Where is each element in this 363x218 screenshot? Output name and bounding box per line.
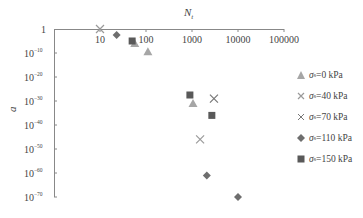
x-tick-label: 1000: [182, 34, 202, 45]
legend-item-110kpa: σs=110 kPa: [296, 127, 352, 148]
legend-item-40kpa: σs=40 kPa: [296, 85, 352, 106]
y-axis-label: a: [6, 106, 18, 112]
legend-item-150kpa: σs=150 kPa: [296, 148, 352, 169]
x-marker-icon: [296, 91, 306, 101]
x-marker-icon: [210, 95, 218, 103]
triangle-marker-icon: [143, 47, 152, 55]
legend-item-0kpa: σs=0 kPa: [296, 64, 352, 85]
x-tick-label: 10000: [226, 34, 251, 45]
y-ticks: 110−1010−2010−3010−4010−5010−6010−70: [24, 24, 57, 203]
diamond-marker-icon: [113, 31, 121, 39]
y-tick-label: 10−60: [24, 167, 43, 179]
y-tick-label: 10−30: [24, 95, 43, 107]
triangle-marker-icon: [296, 70, 306, 80]
x-tick-label: 100: [139, 34, 154, 45]
x-tick-label: 10: [95, 34, 105, 45]
diamond-marker-icon: [203, 171, 211, 179]
y-tick-label: 10−70: [24, 191, 43, 203]
x-tick-label: 100000: [269, 34, 299, 45]
diamond-marker-icon: [296, 133, 306, 143]
axes: [54, 29, 284, 197]
square-marker-icon: [129, 38, 136, 45]
y-tick-label: 10−20: [24, 71, 43, 83]
square-marker-icon: [296, 154, 306, 164]
square-marker-icon: [208, 112, 215, 119]
legend: σs=0 kPa σs=40 kPa σs=70 kPa σs=110 kPa …: [296, 64, 352, 169]
x-axis-label: Nt: [183, 6, 194, 21]
y-tick-label: 10−10: [24, 47, 43, 59]
triangle-marker-icon: [188, 99, 197, 107]
y-tick-label: 1: [41, 24, 46, 35]
data-points: [96, 25, 242, 201]
legend-item-70kpa: σs=70 kPa: [296, 106, 352, 127]
x-ticks: 10100100010000100000: [95, 29, 299, 45]
y-tick-label: 10−40: [24, 119, 43, 131]
square-marker-icon: [186, 92, 193, 99]
x-marker-icon: [296, 112, 306, 122]
y-tick-label: 10−50: [24, 143, 43, 155]
x-marker-icon: [196, 135, 204, 143]
diamond-marker-icon: [234, 193, 242, 201]
